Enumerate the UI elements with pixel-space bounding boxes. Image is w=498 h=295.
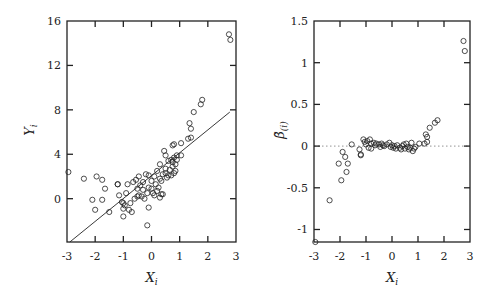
right-scatter-plot: -3-2-10123-1-0.500.511.5Xiβ̃(i) xyxy=(272,15,474,287)
x-tick-label: 0 xyxy=(148,250,155,263)
x-axis-label: Xi xyxy=(144,270,157,287)
data-point xyxy=(115,182,120,187)
y-tick-label: 12 xyxy=(47,59,61,72)
y-tick-label: -0.5 xyxy=(287,182,308,195)
data-point xyxy=(102,186,107,191)
figure: -3-2-101230481216XiYi -3-2-10123-1-0.500… xyxy=(0,0,498,295)
data-point xyxy=(145,223,150,228)
y-tick-label: 1 xyxy=(301,57,308,70)
data-point xyxy=(90,197,95,202)
left-scatter-plot: -3-2-101230481216XiYi xyxy=(22,15,240,287)
x-tick-label: 3 xyxy=(233,250,240,263)
y-tick-label: 8 xyxy=(54,104,61,117)
data-point xyxy=(128,201,133,206)
data-point xyxy=(327,198,332,203)
data-point xyxy=(409,140,414,145)
x-tick-label: -2 xyxy=(90,250,101,263)
x-tick-label: -1 xyxy=(118,250,129,263)
x-tick-label: -2 xyxy=(335,250,346,263)
data-point xyxy=(187,121,192,126)
data-point xyxy=(157,162,162,167)
data-point xyxy=(417,141,422,146)
data-point xyxy=(171,142,176,147)
data-point xyxy=(145,191,150,196)
data-point xyxy=(178,141,183,146)
x-tick-label: -3 xyxy=(309,250,320,263)
data-point xyxy=(344,169,349,174)
data-point xyxy=(157,195,162,200)
data-point xyxy=(188,126,193,131)
x-tick-label: 2 xyxy=(204,250,211,263)
plot-frame xyxy=(314,21,470,242)
y-axis-label: Yi xyxy=(22,124,39,136)
data-point xyxy=(121,206,126,211)
y-tick-label: 16 xyxy=(47,15,61,28)
x-tick-label: -1 xyxy=(361,250,372,263)
data-point xyxy=(100,177,105,182)
data-point xyxy=(124,191,129,196)
data-point xyxy=(226,32,231,37)
x-tick-label: -3 xyxy=(62,250,73,263)
data-point xyxy=(125,182,130,187)
y-axis-label: β̃(i) xyxy=(272,121,289,140)
data-point xyxy=(81,176,86,181)
data-point xyxy=(339,178,344,183)
data-point xyxy=(336,161,341,166)
data-point xyxy=(461,38,466,43)
data-point xyxy=(343,154,348,159)
y-tick-label: 0 xyxy=(54,193,61,206)
x-axis-label: Xi xyxy=(385,270,398,287)
data-point xyxy=(93,207,98,212)
x-tick-label: 1 xyxy=(415,250,422,263)
data-point xyxy=(153,182,158,187)
data-point xyxy=(462,48,467,53)
y-tick-label: 0 xyxy=(301,140,308,153)
y-tick-label: 4 xyxy=(54,148,61,161)
data-point xyxy=(94,174,99,179)
data-point xyxy=(228,37,233,42)
x-tick-label: 2 xyxy=(441,250,448,263)
data-point xyxy=(156,185,161,190)
data-point xyxy=(349,142,354,147)
data-point xyxy=(136,174,141,179)
x-tick-label: 0 xyxy=(389,250,396,263)
data-point xyxy=(340,149,345,154)
data-point xyxy=(345,161,350,166)
data-point xyxy=(357,147,362,152)
data-point xyxy=(117,193,122,198)
data-point xyxy=(100,197,105,202)
x-tick-label: 1 xyxy=(176,250,183,263)
x-tick-label: 3 xyxy=(467,250,474,263)
data-point xyxy=(152,174,157,179)
data-point xyxy=(121,214,126,219)
y-tick-label: 1.5 xyxy=(291,15,309,28)
data-point xyxy=(146,205,151,210)
y-tick-label: -1 xyxy=(297,223,308,236)
y-tick-label: 0.5 xyxy=(291,98,309,111)
data-point xyxy=(191,109,196,114)
data-point xyxy=(427,125,432,130)
